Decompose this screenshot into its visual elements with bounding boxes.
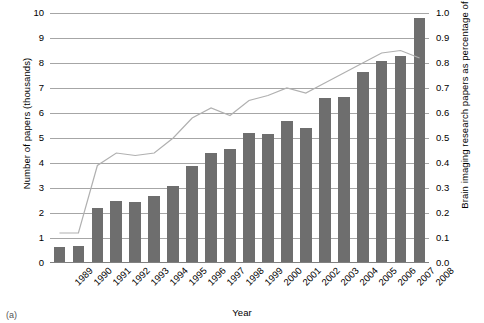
x-axis-tick-label: 2004: [357, 265, 380, 288]
x-axis-tick-label: 1989: [73, 265, 96, 288]
y-axis-left-tick-label: 7: [26, 83, 44, 93]
line-series-path: [59, 51, 419, 234]
y-axis-right-tick-label: 0.7: [436, 83, 460, 93]
figure-caption: (a): [6, 310, 17, 320]
y-axis-left-tick-label: 6: [26, 108, 44, 118]
x-axis-tick-label: 1995: [186, 265, 209, 288]
x-axis-tick-label: 1992: [130, 265, 153, 288]
x-axis-tick-label: 2000: [281, 265, 304, 288]
x-axis-tick-label: 1993: [148, 265, 171, 288]
x-axis-tick-label: 2001: [300, 265, 323, 288]
x-axis-tick-label: 2007: [414, 265, 437, 288]
x-axis-baseline: [50, 262, 429, 263]
x-axis-tick-label: 2006: [395, 265, 418, 288]
y-axis-left-tick-label: 9: [26, 33, 44, 43]
y-axis-left-tick-label: 5: [26, 133, 44, 143]
x-axis-tick-label: 2005: [376, 265, 399, 288]
y-axis-right-tick-label: 0.9: [436, 33, 460, 43]
plot-area: [50, 13, 429, 263]
x-axis-tick-label: 2002: [319, 265, 342, 288]
x-axis-tick-label: 1994: [167, 265, 190, 288]
y-axis-right-tick-label: 0.6: [436, 108, 460, 118]
x-axis-tick-label: 2003: [338, 265, 361, 288]
x-axis-tick-label: 1991: [111, 265, 134, 288]
y-axis-right-tick-label: 0.5: [436, 133, 460, 143]
y-axis-left-tick-label: 1: [26, 233, 44, 243]
y-axis-left-tick-label: 10: [26, 8, 44, 18]
x-axis-tick-label: 1999: [262, 265, 285, 288]
x-axis-title: Year: [0, 307, 484, 318]
y-axis-right-tick-label: 0.8: [436, 58, 460, 68]
chart-figure: Number of papers (thousands) Brain imagi…: [0, 0, 484, 323]
y-axis-left-tick-label: 4: [26, 158, 44, 168]
y-axis-left-tick-label: 0: [26, 258, 44, 268]
x-axis-tick-label: 1997: [224, 265, 247, 288]
x-axis-tick-label: 1990: [92, 265, 115, 288]
line-series: [50, 13, 429, 263]
y-axis-left-tick-label: 3: [26, 183, 44, 193]
x-axis-category-labels: 1989199019911992199319941995199619971998…: [50, 265, 429, 307]
y-axis-right-tick-label: 0.3: [436, 183, 460, 193]
y-axis-left-ticks: 109876543210: [24, 0, 44, 323]
y-axis-left-tick-label: 8: [26, 58, 44, 68]
y-axis-right-tick-label: 1.0: [436, 8, 460, 18]
x-axis-tick-label: 1998: [243, 265, 266, 288]
y-axis-right-tick-label: 0.1: [436, 233, 460, 243]
x-axis-tick-label: 1996: [205, 265, 228, 288]
y-axis-left-tick-label: 2: [26, 208, 44, 218]
y-axis-right-tick-label: 0.2: [436, 208, 460, 218]
y-axis-right-tick-label: 0.4: [436, 158, 460, 168]
